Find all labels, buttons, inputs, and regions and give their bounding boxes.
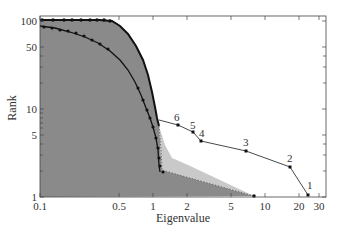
x-tick-10: 10 <box>260 200 272 212</box>
rank-eigenvalue-chart: 1 2 3 4 5 6 0.1 0.5 1 <box>0 0 341 228</box>
y-tick-50: 50 <box>26 41 38 53</box>
point-label-6: 6 <box>174 111 180 123</box>
y-tick-10: 10 <box>26 103 38 115</box>
y-tick-5: 5 <box>32 129 38 141</box>
point-label-4: 4 <box>199 127 205 139</box>
y-tick-labels: 1 5 10 50 100 <box>21 15 38 203</box>
x-tick-0.5: 0.5 <box>112 200 126 212</box>
x-tick-1: 1 <box>150 200 156 212</box>
point-label-3: 3 <box>243 136 249 148</box>
x-tick-30: 30 <box>314 200 326 212</box>
y-axis-title: Rank <box>5 95 19 120</box>
y-tick-1: 1 <box>32 191 38 203</box>
x-tick-5: 5 <box>228 200 234 212</box>
x-axis-title: Eigenvalue <box>156 211 210 225</box>
point-label-1: 1 <box>307 179 313 191</box>
x-tick-20: 20 <box>294 200 306 212</box>
point-label-2: 2 <box>287 152 293 164</box>
point-label-5: 5 <box>190 119 196 131</box>
y-tick-100: 100 <box>21 15 38 27</box>
